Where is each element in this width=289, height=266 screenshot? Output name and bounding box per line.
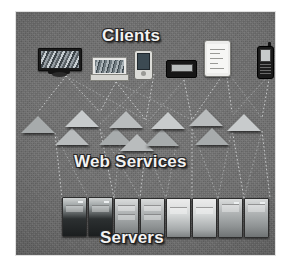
figure-canvas: Clients Web Services Servers <box>0 0 289 266</box>
web-services-label: Web Services <box>74 153 187 170</box>
diagram-photo-plate: Clients Web Services Servers <box>16 12 275 255</box>
clients-label: Clients <box>102 27 160 44</box>
servers-label: Servers <box>100 229 164 246</box>
tier-labels: Clients Web Services Servers <box>16 12 275 255</box>
